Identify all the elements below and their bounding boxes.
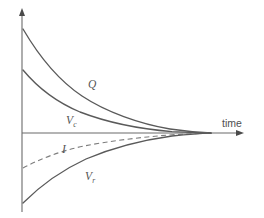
rc-discharge-figure: Q Vc I Vr time [0, 0, 264, 218]
label-vc-sub: c [73, 120, 77, 129]
label-i: I [61, 143, 67, 155]
curve-vc [23, 70, 211, 133]
rc-discharge-plot: Q Vc I Vr time [0, 0, 264, 218]
x-axis-arrow-icon [236, 130, 244, 136]
label-q: Q [88, 78, 97, 90]
label-q-main: Q [88, 78, 97, 90]
label-vr-sub: r [92, 176, 95, 185]
curve-vr [23, 133, 211, 203]
y-axis-arrow-icon [19, 8, 25, 16]
label-vr: Vr [85, 170, 95, 185]
label-time-axis: time [222, 117, 242, 129]
curve-q [23, 29, 211, 133]
label-i-main: I [61, 143, 67, 155]
label-vc: Vc [66, 114, 77, 129]
curve-i [23, 133, 212, 168]
